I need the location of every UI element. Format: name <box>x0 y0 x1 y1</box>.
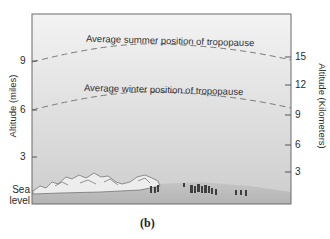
right-tick-9: 9 <box>295 110 301 120</box>
tropopause-figure: 9 6 3 Altitude (miles) Sea level 15 12 9… <box>0 0 330 239</box>
sea-label: Sea <box>6 184 30 195</box>
left-tick-3: 3 <box>20 152 26 162</box>
right-tick-6: 6 <box>295 140 301 150</box>
left-tick-6: 6 <box>20 105 26 115</box>
left-axis-title: Altitude (miles) <box>8 66 18 146</box>
level-label: level <box>6 195 30 206</box>
right-tick-15: 15 <box>295 52 306 62</box>
right-tick-3: 3 <box>295 167 301 177</box>
sea-level-label: Sea level <box>6 184 30 206</box>
left-tick-9: 9 <box>20 56 26 66</box>
figure-caption: (b) <box>140 216 155 231</box>
right-tick-12: 12 <box>295 80 306 90</box>
right-axis-title: Altitude (Kilometers) <box>317 56 327 156</box>
